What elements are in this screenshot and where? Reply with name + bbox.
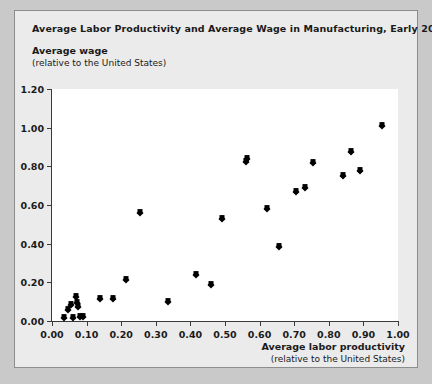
y-axis-tick-label: 0.20 xyxy=(0,277,44,288)
x-axis-tick xyxy=(329,321,330,326)
chart-title: Average Labor Productivity and Average W… xyxy=(32,23,404,34)
y-axis-label-primary: Average wage xyxy=(32,45,108,56)
y-axis-tick xyxy=(47,89,52,90)
x-axis-label-primary: Average labor productivity xyxy=(15,341,405,352)
x-axis-tick xyxy=(363,321,364,326)
scatter-point xyxy=(348,148,355,155)
x-axis-tick-label: 1.00 xyxy=(378,329,418,340)
scatter-point xyxy=(109,295,116,302)
plot-area: 0.000.200.400.600.801.001.200.000.100.20… xyxy=(51,89,398,322)
scatter-point xyxy=(164,298,171,305)
scatter-point xyxy=(69,315,76,322)
x-axis-tick xyxy=(190,321,191,326)
scatter-point xyxy=(339,172,346,179)
scatter-point xyxy=(61,315,68,322)
scatter-point xyxy=(310,160,317,167)
y-axis-tick-label: 0.40 xyxy=(0,238,44,249)
y-axis-tick xyxy=(47,244,52,245)
scatter-point xyxy=(218,215,225,222)
scatter-point xyxy=(263,205,270,212)
scatter-point xyxy=(301,184,308,191)
scatter-point xyxy=(97,295,104,302)
x-axis-tick xyxy=(294,321,295,326)
x-axis-tick xyxy=(260,321,261,326)
scatter-point xyxy=(379,122,386,129)
scatter-point xyxy=(208,282,215,289)
scatter-point xyxy=(244,155,251,162)
x-axis-label-secondary: (relative to the United States) xyxy=(15,354,405,364)
scatter-point xyxy=(192,271,199,278)
y-axis-tick xyxy=(47,205,52,206)
y-axis-tick xyxy=(47,282,52,283)
x-axis-tick xyxy=(225,321,226,326)
y-axis-tick-label: 0.80 xyxy=(0,161,44,172)
y-axis-tick-label: 0.00 xyxy=(0,316,44,327)
x-axis-tick xyxy=(121,321,122,326)
scatter-point xyxy=(275,243,282,250)
scatter-point xyxy=(356,168,363,175)
x-axis-tick xyxy=(156,321,157,326)
x-axis-tick xyxy=(398,321,399,326)
x-axis-tick xyxy=(52,321,53,326)
scatter-point xyxy=(123,277,130,284)
scatter-point xyxy=(292,189,299,196)
y-axis-tick xyxy=(47,128,52,129)
y-axis-label-secondary: (relative to the United States) xyxy=(32,58,166,68)
y-axis-tick-label: 1.00 xyxy=(0,122,44,133)
x-axis-tick xyxy=(87,321,88,326)
scatter-point xyxy=(74,303,81,310)
y-axis-tick-label: 0.60 xyxy=(0,200,44,211)
scatter-point xyxy=(137,209,144,216)
chart-figure: Average Labor Productivity and Average W… xyxy=(14,10,418,368)
y-axis-tick xyxy=(47,166,52,167)
y-axis-tick-label: 1.20 xyxy=(0,84,44,95)
